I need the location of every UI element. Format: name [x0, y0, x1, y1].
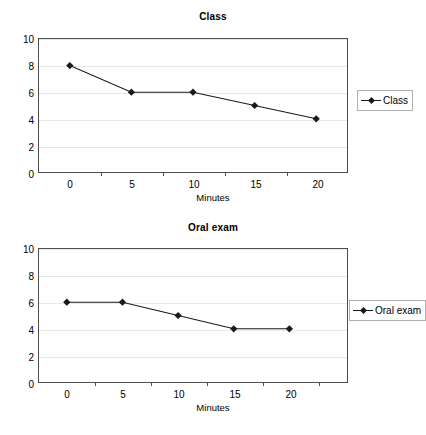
- data-point-marker: [286, 325, 293, 332]
- legend-class: Class: [357, 90, 413, 111]
- x-axis-title-class: Minutes: [0, 192, 426, 203]
- y-tick-label-2: 2: [28, 352, 34, 363]
- data-point-marker: [189, 89, 196, 96]
- legend-label-class: Class: [383, 95, 408, 106]
- plot-area-oral-exam: 0 2 4 6 8 10 0 5 10 15 20: [38, 248, 348, 383]
- y-tick-label-4: 4: [28, 115, 34, 126]
- x-tick-0: [95, 382, 96, 386]
- data-point-marker: [313, 115, 320, 122]
- x-tick-1: [151, 382, 152, 386]
- chart-title-oral-exam: Oral exam: [0, 222, 426, 233]
- series-line-class: [39, 39, 347, 172]
- series-markers: [63, 299, 293, 333]
- x-tick-0: [101, 172, 102, 176]
- legend-line-marker-icon: [361, 95, 381, 106]
- y-tick-label-2: 2: [28, 142, 34, 153]
- x-tick-3: [263, 382, 264, 386]
- chart-class: Class 0 2 4 6 8 10 0 5 10 15 20: [0, 0, 426, 215]
- x-tick-1: [163, 172, 164, 176]
- x-tick-label-10: 10: [188, 179, 199, 190]
- chart-oral-exam: Oral exam 0 2 4 6 8 10 0 5 10 15 20: [0, 215, 426, 435]
- series-line-oral-exam: [39, 249, 347, 382]
- series-markers: [66, 62, 320, 122]
- y-tick-label-6: 6: [28, 88, 34, 99]
- x-tick-2: [225, 172, 226, 176]
- y-tick-label-0: 0: [28, 379, 34, 390]
- y-tick-label-6: 6: [28, 298, 34, 309]
- data-point-marker: [119, 299, 126, 306]
- y-tick-label-0: 0: [28, 169, 34, 180]
- x-tick-4: [319, 382, 320, 386]
- x-tick-label-0: 0: [64, 389, 70, 400]
- y-tick-label-8: 8: [28, 61, 34, 72]
- x-tick-label-20: 20: [285, 389, 296, 400]
- data-point-marker: [63, 299, 70, 306]
- x-tick-3: [287, 172, 288, 176]
- y-tick-label-10: 10: [23, 244, 34, 255]
- x-tick-2: [207, 382, 208, 386]
- legend-label-oral-exam: Oral exam: [375, 305, 421, 316]
- data-point-marker: [251, 102, 258, 109]
- x-axis-title-oral-exam: Minutes: [0, 402, 426, 413]
- legend-oral-exam: Oral exam: [349, 300, 426, 321]
- x-tick-label-5: 5: [120, 389, 126, 400]
- data-point-marker: [66, 62, 73, 69]
- x-tick-label-10: 10: [173, 389, 184, 400]
- data-point-marker: [174, 312, 181, 319]
- y-tick-label-4: 4: [28, 325, 34, 336]
- x-tick-label-5: 5: [129, 179, 135, 190]
- data-point-marker: [128, 89, 135, 96]
- chart-title-class: Class: [0, 11, 426, 22]
- y-tick-label-10: 10: [23, 34, 34, 45]
- x-tick-label-15: 15: [229, 389, 240, 400]
- legend-line-marker-icon: [353, 305, 373, 316]
- x-tick-label-0: 0: [67, 179, 73, 190]
- plot-area-class: 0 2 4 6 8 10 0 5 10 15 20: [38, 38, 348, 173]
- y-tick-label-8: 8: [28, 271, 34, 282]
- x-tick-label-15: 15: [250, 179, 261, 190]
- x-tick-label-20: 20: [312, 179, 323, 190]
- data-point-marker: [230, 325, 237, 332]
